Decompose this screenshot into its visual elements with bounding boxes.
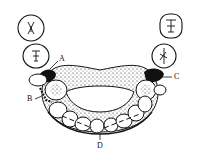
- diagram-canvas: A B C D: [0, 0, 200, 153]
- left-teeth: [18, 15, 49, 68]
- label-B: B: [27, 95, 32, 103]
- label-C: C: [174, 73, 179, 81]
- denture-drawing: [0, 0, 200, 153]
- label-A: A: [59, 55, 65, 63]
- label-D: D: [97, 142, 103, 150]
- right-teeth: [152, 14, 182, 68]
